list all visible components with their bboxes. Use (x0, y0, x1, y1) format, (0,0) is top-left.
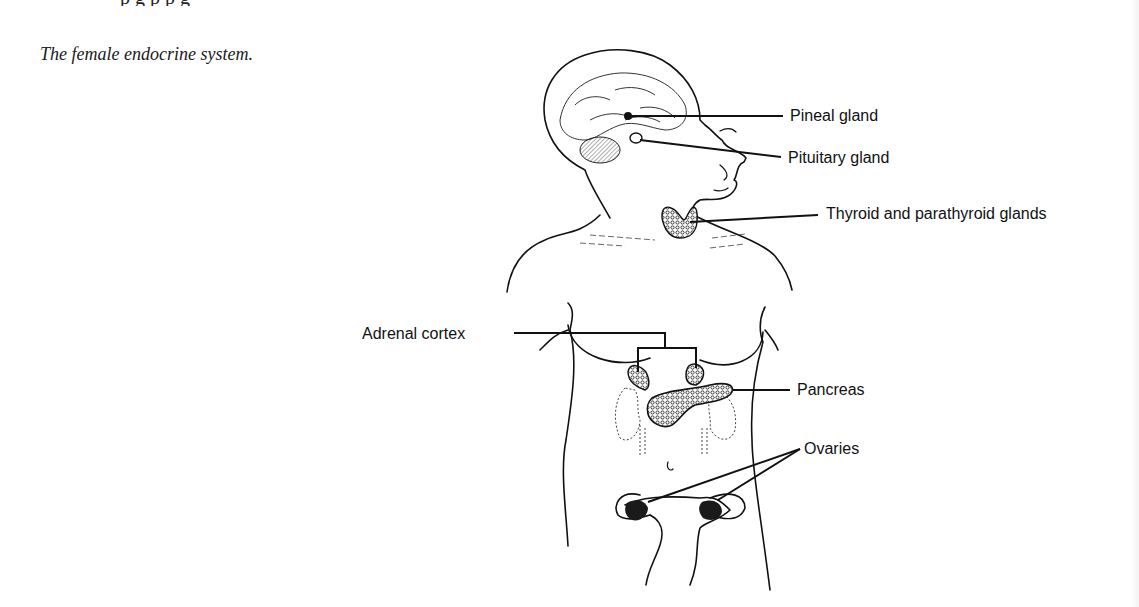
brain-detail (560, 73, 686, 140)
clavicle-lines (580, 234, 745, 248)
cerebellum (580, 137, 620, 163)
torso-right-outline (752, 307, 770, 590)
left-shoulder-outline (507, 215, 600, 292)
label-ovaries: Ovaries (804, 441, 859, 457)
label-pineal-gland: Pineal gland (790, 108, 878, 124)
right-arm-line (765, 330, 778, 350)
label-adrenal-cortex: Adrenal cortex (362, 326, 465, 342)
endocrine-diagram (0, 0, 1139, 607)
left-ovary-shape (625, 500, 648, 520)
label-thyroid-parathyroid-glands: Thyroid and parathyroid glands (826, 206, 1047, 222)
right-ovary-shape (699, 500, 722, 520)
right-breast-outline (700, 332, 763, 365)
pituitary-leader (640, 140, 781, 157)
right-shoulder-outline (690, 213, 792, 290)
right-adrenal-gland-shape (686, 364, 704, 385)
thyroid-leader (690, 215, 818, 222)
adrenal-leader (514, 333, 696, 372)
label-pituitary-gland: Pituitary gland (788, 150, 889, 166)
pituitary-gland-shape (630, 133, 642, 143)
nose (720, 165, 727, 180)
leader-lines (514, 116, 818, 502)
eye (720, 129, 736, 132)
label-pancreas: Pancreas (797, 382, 865, 398)
mouth (714, 188, 728, 191)
navel (667, 462, 673, 470)
ovaries-leader-right (718, 449, 800, 500)
pancreas-shape (647, 384, 732, 427)
